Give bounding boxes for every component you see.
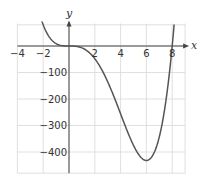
x-tick-label: −4	[10, 48, 25, 59]
x-tick-label: 8	[169, 48, 175, 59]
x-tick-label: 6	[143, 48, 149, 59]
x-axis-label: x	[191, 39, 198, 52]
curve	[39, 13, 174, 161]
x-axis-arrow-icon	[183, 44, 189, 49]
y-tick-label: −400	[40, 147, 67, 158]
x-tick-label: −2	[36, 48, 51, 59]
x-tick-label: 2	[92, 48, 98, 59]
function-curve	[39, 13, 174, 161]
y-tick-label: −300	[40, 120, 67, 131]
y-tick-label: −100	[40, 67, 67, 78]
y-axis-label: y	[65, 7, 73, 20]
x-tick-label: 4	[117, 48, 123, 59]
tick-labels: −4−22468−100−200−300−400	[10, 48, 175, 158]
function-graph: −4−22468−100−200−300−400 x y	[0, 0, 207, 186]
y-tick-label: −200	[40, 94, 67, 105]
y-axis-arrow-icon	[67, 20, 72, 26]
